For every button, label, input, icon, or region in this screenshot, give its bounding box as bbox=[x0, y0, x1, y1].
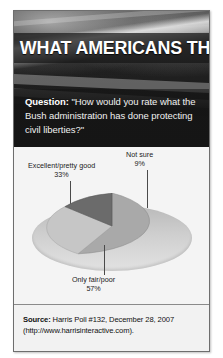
slice-label-excellent: Excellent/pretty good 33% bbox=[28, 161, 95, 179]
source-label: Source: bbox=[23, 315, 51, 324]
slice-label-not-sure-name: Not sure bbox=[126, 150, 153, 159]
question-label: Question: bbox=[25, 96, 69, 107]
question-block: Question: "How would you rate what the B… bbox=[25, 95, 200, 138]
page-title: WHAT AMERICANS THINK bbox=[20, 35, 203, 61]
pie-chart bbox=[32, 193, 192, 279]
slice-label-only-fair-poor-name: Only fair/poor bbox=[72, 275, 115, 284]
slice-label-excellent-value: 33% bbox=[28, 170, 95, 179]
slice-label-only-fair-poor: Only fair/poor 57% bbox=[72, 275, 115, 293]
slice-label-only-fair-poor-value: 57% bbox=[72, 284, 115, 293]
slice-label-not-sure-value: 9% bbox=[126, 159, 153, 168]
pie-chart-panel: Excellent/pretty good 33% Not sure 9% bbox=[14, 147, 209, 307]
slice-label-not-sure: Not sure 9% bbox=[126, 150, 153, 168]
infographic-page: WHAT AMERICANS THINK Question: "How woul… bbox=[0, 0, 223, 358]
card-header: WHAT AMERICANS THINK Question: "How woul… bbox=[14, 11, 209, 147]
pie-slices bbox=[32, 193, 192, 259]
leader-line-only-fair-poor bbox=[104, 245, 105, 275]
source-block: Source: Harris Poll #132, December 28, 2… bbox=[14, 304, 209, 351]
what-americans-think-card: WHAT AMERICANS THINK Question: "How woul… bbox=[13, 10, 210, 352]
slice-label-excellent-name: Excellent/pretty good bbox=[28, 161, 95, 170]
source-text-container: Source: Harris Poll #132, December 28, 2… bbox=[23, 314, 201, 336]
pie-3d-top bbox=[32, 193, 192, 259]
